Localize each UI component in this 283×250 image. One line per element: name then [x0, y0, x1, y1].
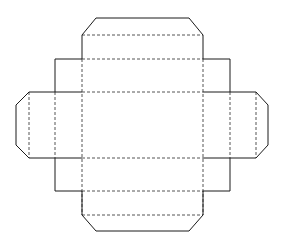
base-panel-face: [82, 92, 203, 158]
bottom-flap-face: [82, 191, 203, 231]
bottom-right-corner-tab-face: [203, 158, 230, 191]
right-flap-face: [230, 92, 268, 158]
box-dieline-drawing: [0, 0, 283, 250]
right-wall-face: [203, 92, 230, 158]
bottom-wall-face: [82, 158, 203, 191]
left-flap-face: [16, 92, 55, 158]
dieline-canvas: [0, 0, 283, 250]
left-wall-face: [55, 92, 82, 158]
top-wall-face: [82, 59, 203, 92]
top-left-corner-tab-face: [55, 59, 82, 92]
top-right-corner-tab-face: [203, 59, 230, 92]
top-flap-face: [82, 18, 203, 59]
bottom-left-corner-tab-face: [55, 158, 82, 191]
